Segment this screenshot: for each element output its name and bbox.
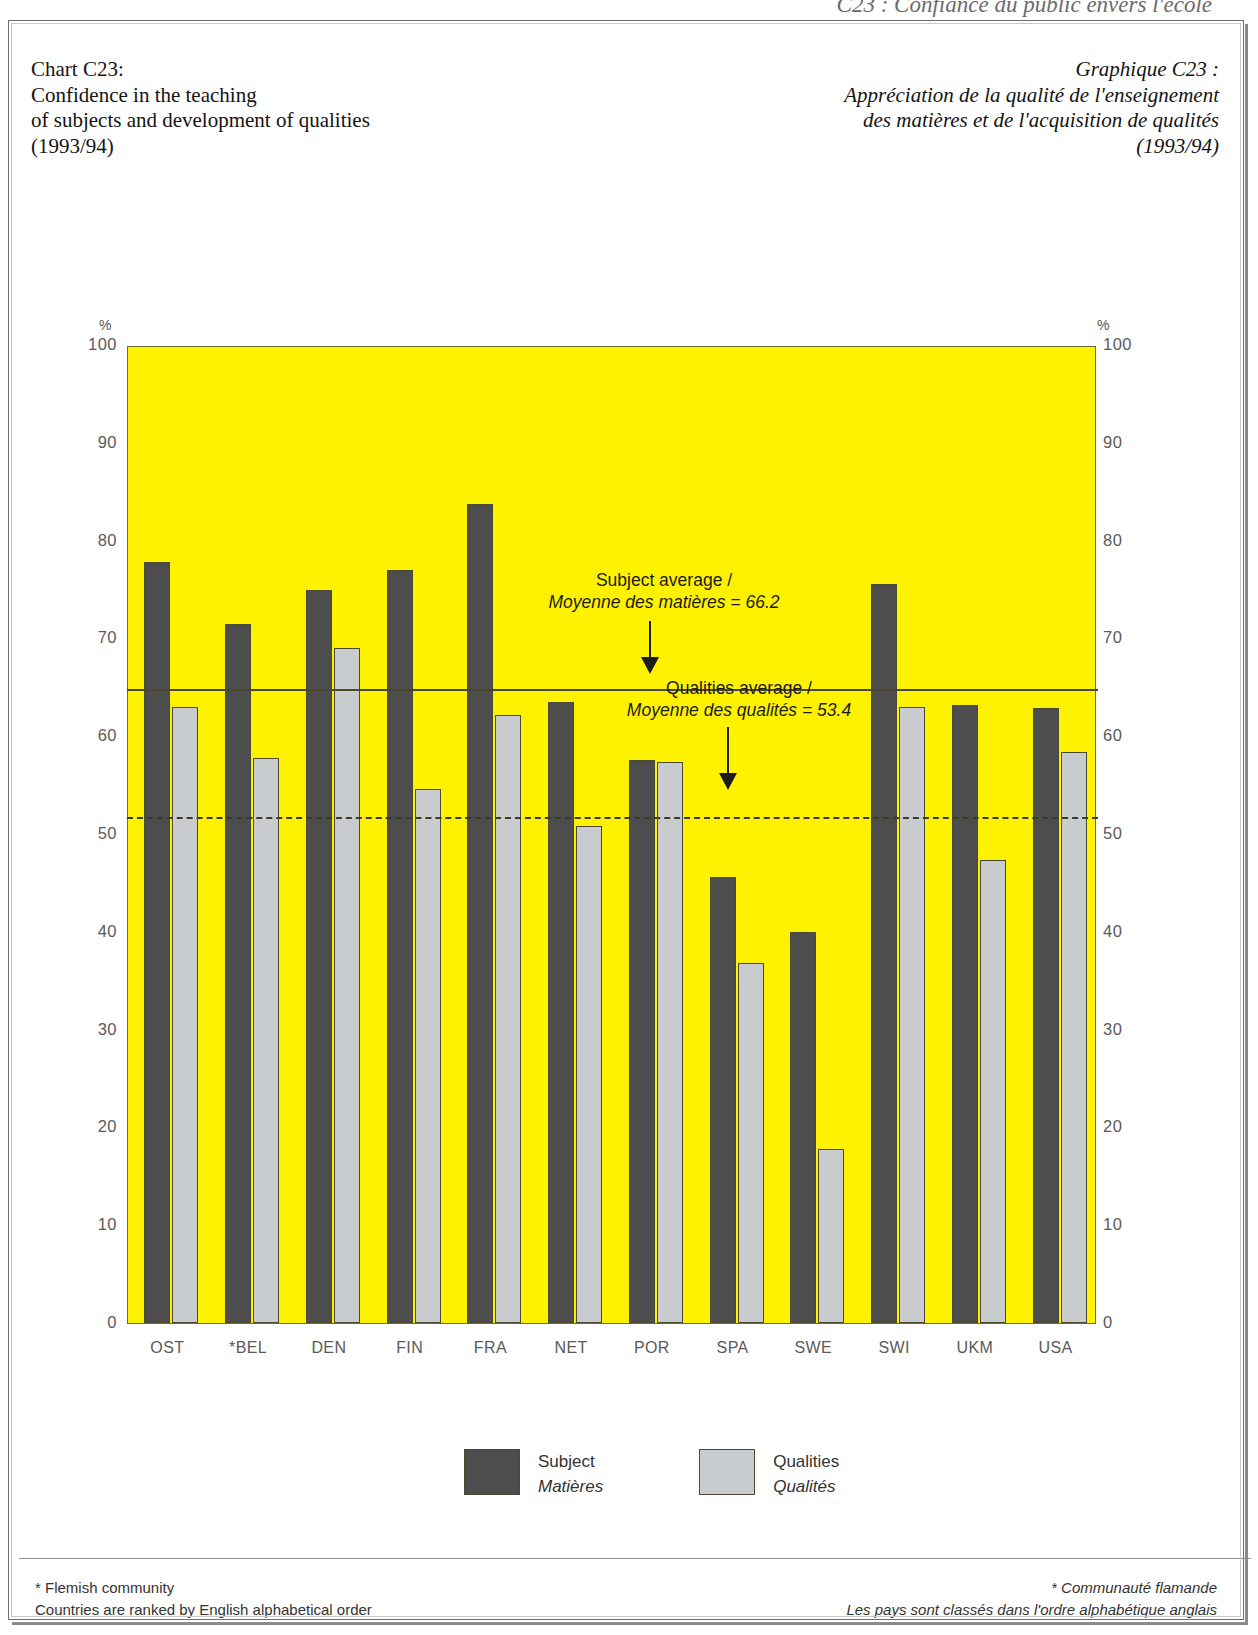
running-head: C23 : Confiance du public envers l'école xyxy=(0,0,1258,18)
y-axis-unit-left: % xyxy=(99,317,111,333)
y-tick-label-70-right: 70 xyxy=(1103,628,1149,647)
plot-area xyxy=(127,346,1096,1324)
y-tick-label-20-left: 20 xyxy=(71,1117,117,1136)
y-axis-unit-right: % xyxy=(1097,317,1109,333)
bar-subject-UKM xyxy=(952,705,978,1323)
y-tick-label-80-left: 80 xyxy=(71,531,117,550)
chart-title-fr: Graphique C23 : Appréciation de la quali… xyxy=(579,57,1219,159)
bar-qualities-UKM xyxy=(980,860,1006,1323)
legend-item-qualities: Qualities Qualités xyxy=(699,1449,839,1499)
y-tick-label-80-right: 80 xyxy=(1103,531,1149,550)
legend-label-subject-fr: Matières xyxy=(538,1474,603,1499)
y-tick-label-50-left: 50 xyxy=(71,824,117,843)
footnote-en-line-1: Countries are ranked by English alphabet… xyxy=(35,1599,372,1621)
x-axis-label-SWI: SWI xyxy=(854,1339,935,1357)
y-tick-label-10-left: 10 xyxy=(71,1215,117,1234)
frame-shadow-right xyxy=(1245,24,1248,1624)
bar-qualities-BEL xyxy=(253,758,279,1323)
qualities-average-label-fr: Moyenne des qualités = 53.4 xyxy=(627,700,851,720)
bar-qualities-FRA xyxy=(495,715,521,1323)
qualities-average-line xyxy=(127,817,1098,819)
bar-qualities-FIN xyxy=(415,789,441,1323)
bar-subject-FIN xyxy=(387,570,413,1323)
bar-qualities-SWI xyxy=(899,707,925,1323)
subject-average-arrow-shaft xyxy=(649,621,651,659)
title-en-line-1: Confidence in the teaching xyxy=(31,83,591,109)
qualities-average-arrow-shaft xyxy=(727,727,729,775)
y-tick-label-60-right: 60 xyxy=(1103,726,1149,745)
subject-average-label-fr: Moyenne des matières = 66.2 xyxy=(548,592,779,612)
bar-subject-NET xyxy=(548,702,574,1323)
y-tick-label-20-right: 20 xyxy=(1103,1117,1149,1136)
x-axis-label-SPA: SPA xyxy=(692,1339,773,1357)
title-en-line-3: (1993/94) xyxy=(31,134,591,160)
x-axis-label-DEN: DEN xyxy=(289,1339,370,1357)
bar-qualities-NET xyxy=(576,826,602,1323)
y-tick-label-30-right: 30 xyxy=(1103,1020,1149,1039)
footnote-fr-line-0: * Communauté flamande xyxy=(846,1577,1217,1599)
y-tick-label-10-right: 10 xyxy=(1103,1215,1149,1234)
y-tick-label-0-right: 0 xyxy=(1103,1313,1149,1332)
title-en-line-2: of subjects and development of qualities xyxy=(31,108,591,134)
y-tick-label-70-left: 70 xyxy=(71,628,117,647)
qualities-average-arrow-head xyxy=(719,773,737,790)
bar-subject-BEL xyxy=(225,624,251,1323)
x-axis-label-FIN: FIN xyxy=(369,1339,450,1357)
x-axis-label-UKM: UKM xyxy=(935,1339,1016,1357)
x-axis-label-POR: POR xyxy=(612,1339,693,1357)
bar-qualities-DEN xyxy=(334,648,360,1323)
y-tick-label-40-left: 40 xyxy=(71,922,117,941)
y-tick-label-50-right: 50 xyxy=(1103,824,1149,843)
bar-qualities-SPA xyxy=(738,963,764,1323)
footnote-fr-line-1: Les pays sont classés dans l'ordre alpha… xyxy=(846,1599,1217,1621)
y-tick-label-40-right: 40 xyxy=(1103,922,1149,941)
y-tick-label-90-right: 90 xyxy=(1103,433,1149,452)
title-fr-line-0: Graphique C23 : xyxy=(579,57,1219,83)
title-fr-line-3: (1993/94) xyxy=(579,134,1219,160)
bar-subject-DEN xyxy=(306,590,332,1323)
x-axis-label-FRA: FRA xyxy=(450,1339,531,1357)
subject-average-annotation: Subject average / Moyenne des matières =… xyxy=(514,569,814,613)
legend-label-qualities-en: Qualities xyxy=(773,1449,839,1474)
legend-label-qualities-fr: Qualités xyxy=(773,1474,839,1499)
bar-qualities-POR xyxy=(657,762,683,1323)
bar-subject-USA xyxy=(1033,708,1059,1323)
footnote-divider xyxy=(19,1558,1251,1559)
legend-swatch-qualities xyxy=(699,1449,755,1495)
qualities-average-label-en: Qualities average / xyxy=(666,678,812,698)
subject-average-label-en: Subject average / xyxy=(596,570,732,590)
y-tick-label-30-left: 30 xyxy=(71,1020,117,1039)
bar-qualities-OST xyxy=(172,707,198,1323)
bar-qualities-USA xyxy=(1061,752,1087,1323)
legend-label-subject-en: Subject xyxy=(538,1449,603,1474)
chart-legend: Subject Matières Qualities Qualités xyxy=(464,1449,839,1499)
qualities-average-annotation: Qualities average / Moyenne des qualités… xyxy=(589,677,889,721)
footnote-en-line-0: * Flemish community xyxy=(35,1577,372,1599)
x-axis-label-BEL: *BEL xyxy=(208,1339,289,1357)
footnote-fr: * Communauté flamande Les pays sont clas… xyxy=(846,1577,1217,1621)
x-axis-label-OST: OST xyxy=(127,1339,208,1357)
x-axis-label-NET: NET xyxy=(531,1339,612,1357)
frame-shadow-bottom xyxy=(12,1622,1248,1625)
chart-frame: Chart C23: Confidence in the teaching of… xyxy=(8,20,1244,1620)
bar-subject-OST xyxy=(144,562,170,1323)
bar-qualities-SWE xyxy=(818,1149,844,1323)
title-en-line-0: Chart C23: xyxy=(31,57,591,83)
y-tick-label-90-left: 90 xyxy=(71,433,117,452)
x-axis-label-SWE: SWE xyxy=(773,1339,854,1357)
bar-subject-FRA xyxy=(467,504,493,1323)
bar-subject-SPA xyxy=(710,877,736,1323)
y-tick-label-100-left: 100 xyxy=(71,335,117,354)
subject-average-arrow-head xyxy=(641,657,659,674)
y-tick-label-60-left: 60 xyxy=(71,726,117,745)
bar-subject-SWE xyxy=(790,932,816,1323)
legend-item-subject: Subject Matières xyxy=(464,1449,603,1499)
bar-subject-POR xyxy=(629,760,655,1323)
x-axis-label-USA: USA xyxy=(1015,1339,1096,1357)
title-fr-line-1: Appréciation de la qualité de l'enseigne… xyxy=(579,83,1219,109)
legend-swatch-subject xyxy=(464,1449,520,1495)
chart-title-en: Chart C23: Confidence in the teaching of… xyxy=(31,57,591,159)
title-fr-line-2: des matières et de l'acquisition de qual… xyxy=(579,108,1219,134)
y-tick-label-100-right: 100 xyxy=(1103,335,1149,354)
y-tick-label-0-left: 0 xyxy=(71,1313,117,1332)
